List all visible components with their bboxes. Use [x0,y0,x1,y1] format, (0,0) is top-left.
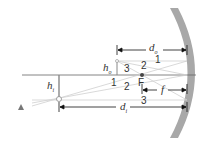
label-F: F [138,78,144,88]
ray-label-2b: 2 [124,82,130,92]
label-di: di [120,101,127,114]
ray-label-3a: 3 [124,64,130,74]
ray-label-1a: 1 [155,55,161,65]
focal-length-dimension [142,84,187,94]
ray-label-3b: 3 [141,96,147,106]
concave-mirror [170,8,195,138]
label-hi: hi [47,80,54,93]
eye-icon [18,104,24,110]
ray-label-2a: 2 [141,61,147,71]
label-f: f [161,84,164,95]
ray-label-1b: 1 [111,78,117,88]
label-ho: ho [103,62,112,75]
